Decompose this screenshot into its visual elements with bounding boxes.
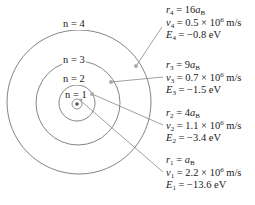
level-info-n1: r1 = aB v1 = 2.2 × 106 m/s E1 = −13.6 eV <box>166 154 241 192</box>
energy-n2: E2 = −3.4 eV <box>166 132 241 145</box>
level-info-n2: r2 = 4aB v2 = 1.1 × 106 m/s E2 = −3.4 eV <box>166 107 241 145</box>
electron-marker-n4 <box>134 64 138 68</box>
radius-n4: r4 = 16aB <box>166 4 241 17</box>
level-info-n4: r4 = 16aB v4 = 0.5 × 106 m/s E4 = −0.8 e… <box>166 4 241 42</box>
radius-n3: r3 = 9aB <box>166 59 241 72</box>
nucleus <box>75 102 79 106</box>
energy-n3: E3 = −1.5 eV <box>166 84 241 97</box>
radius-n1: r1 = aB <box>166 154 241 167</box>
level-info-n3: r3 = 9aB v3 = 0.7 × 106 m/s E3 = −1.5 eV <box>166 59 241 97</box>
speed-n3: v3 = 0.7 × 106 m/s <box>166 72 241 85</box>
leader-line-n2 <box>92 94 163 125</box>
leader-line-n4 <box>136 27 162 66</box>
orbit-label-n3: n = 3 <box>62 54 86 66</box>
radius-n2: r2 = 4aB <box>166 107 241 120</box>
speed-n4: v4 = 0.5 × 106 m/s <box>166 17 241 30</box>
electron-marker-n2 <box>90 92 94 96</box>
speed-n1: v1 = 2.2 × 106 m/s <box>166 167 241 180</box>
electron-marker-n3 <box>109 80 113 84</box>
orbit-label-n4: n = 4 <box>62 18 86 30</box>
energy-n1: E1 = −13.6 eV <box>166 179 241 192</box>
orbit-label-n1: n = 1 <box>64 89 88 101</box>
orbit-label-n2: n = 2 <box>62 73 86 85</box>
speed-n2: v2 = 1.1 × 106 m/s <box>166 120 241 133</box>
orbit-n4 <box>7 30 151 174</box>
leader-line-n3 <box>111 77 163 82</box>
energy-n4: E4 = −0.8 eV <box>166 29 241 42</box>
